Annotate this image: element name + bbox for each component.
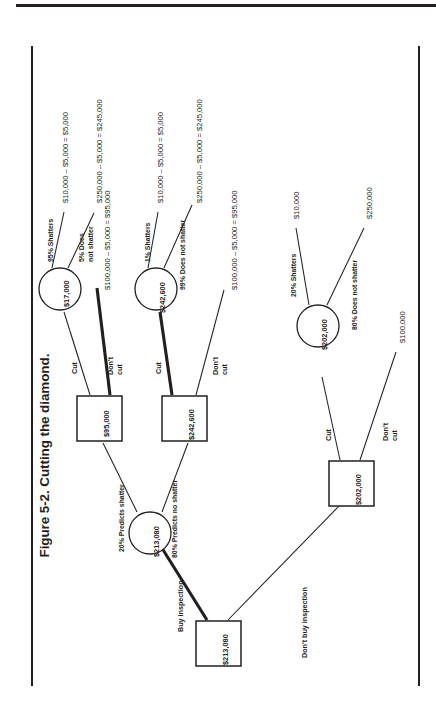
edge-dont-cut-3 <box>360 352 396 460</box>
branch-label-dont-buy-inspection: Don't buy inspection <box>301 587 308 658</box>
prob-80-predicts-no-shatter: 80% Predicts no shatter <box>172 480 179 558</box>
edge-dont-buy-inspection <box>228 505 340 620</box>
terminal-payoff-100k: $100,000 <box>399 311 407 343</box>
terminal-payoff-250k: $250,000 <box>366 187 374 219</box>
terminal-payoff-95k-a: $100,000 – $5,000 = $95,000 <box>104 191 112 290</box>
edge-20-shatters <box>296 228 309 305</box>
branch-label-dont-cut-3: Don't cut <box>381 423 399 441</box>
branch-label-cut-3: Cut <box>325 429 332 441</box>
chance-node-213080 <box>129 512 171 554</box>
prob-20-shatters: 20% Shatters <box>291 254 298 297</box>
decision-node-value-95000: $95,000 <box>103 410 110 437</box>
chance-node-202000 <box>297 305 339 347</box>
edge-cut-1 <box>64 312 90 395</box>
terminal-payoff-10k: $10,000 <box>293 192 301 219</box>
branch-label-cut-2: Cut <box>155 362 162 374</box>
decision-node-213080 <box>196 621 241 666</box>
branch-label-dont-cut-2: Don't cut <box>211 357 229 375</box>
terminal-payoff-245k-b: $250,000 – $5,000 = $245,000 <box>196 99 204 203</box>
edge-cut-3 <box>322 377 340 460</box>
prob-5-does-not-shatter: 5% Does not shatter <box>78 226 95 262</box>
prob-99-does-not-shatter: 99% Does not shatter <box>180 220 187 290</box>
decision-node-95000 <box>77 396 122 441</box>
decision-node-value-213080: $213,080 <box>222 634 229 665</box>
decision-tree-graphic <box>0 0 436 711</box>
edge-dont-cut-1 <box>97 288 110 395</box>
decision-node-202000 <box>329 461 374 506</box>
chance-node-242600 <box>135 268 177 310</box>
chance-node-value-213080: $213,080 <box>153 526 160 557</box>
prob-20-predicts-shatter: 20% Predicts shatter <box>119 484 126 552</box>
terminal-payoff-5k-a: $10,000 – $5,000 = $5,000 <box>62 112 70 203</box>
branch-label-dont-cut-1: Don't cut <box>106 357 124 375</box>
terminal-payoff-245k-a: $250,000 – $5,000 = $245,000 <box>96 99 104 203</box>
prob-80-does-not-shatter: 80% Does not shatter <box>352 260 359 330</box>
decision-node-242600 <box>162 396 207 441</box>
chance-node-value-242600: $242,600 <box>159 282 166 313</box>
chance-node-value-17000: $17,000 <box>63 280 70 307</box>
terminal-payoff-95k-b: $100,000 – $5,000 = $95,000 <box>231 191 239 290</box>
figure-page: Figure 5-2. Cutting the diamond. <box>0 0 436 711</box>
edge-cut-2 <box>160 312 172 395</box>
chance-node-17000 <box>39 268 81 310</box>
chance-node-value-202000: $202,000 <box>321 319 328 350</box>
terminal-payoff-5k-b: $10,000 – $5,000 = $5,000 <box>157 112 165 203</box>
decision-node-value-202000: $202,000 <box>355 474 362 505</box>
branch-label-buy-inspection: Buy inspection <box>177 580 184 632</box>
decision-node-value-242600: $242,600 <box>188 409 195 440</box>
prob-1-shatters: 1% Shatters <box>145 223 152 262</box>
branch-label-cut-1: Cut <box>71 362 78 374</box>
prob-95-shatters: 95% Shatters <box>48 219 55 262</box>
edge-dont-cut-2 <box>196 290 224 395</box>
edge-99-not-shatter <box>164 205 192 268</box>
